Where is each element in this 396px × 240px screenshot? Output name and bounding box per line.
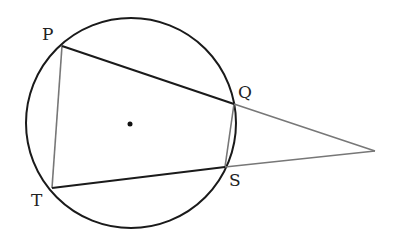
segment-TS	[52, 167, 225, 188]
label-T: T	[31, 192, 42, 209]
segment-PQ	[62, 46, 234, 104]
label-P: P	[42, 26, 53, 43]
geometry-diagram: P Q S T	[0, 0, 396, 240]
diagram-canvas	[0, 0, 396, 240]
center-dot	[128, 122, 133, 127]
label-Q: Q	[238, 84, 252, 101]
segment-S-apex	[225, 151, 375, 167]
label-S: S	[229, 172, 241, 189]
segment-PT	[52, 46, 62, 188]
segment-Q-apex	[234, 104, 375, 151]
